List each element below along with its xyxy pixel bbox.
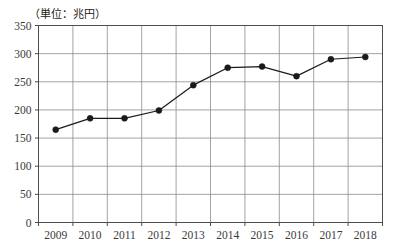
y-axis-labels: 050100150200250300350 [14,20,32,229]
data-point [156,107,162,113]
data-point [328,56,334,62]
x-gridlines [73,26,348,223]
x-axis-ticks [39,223,383,227]
y-tick-label: 100 [14,160,32,172]
data-point [87,115,93,121]
data-point [362,54,368,60]
x-tick-label: 2016 [285,229,308,241]
x-tick-label: 2015 [251,229,274,241]
line-chart: （単位：兆円） 050100150200250300350 2009201020… [0,0,393,248]
y-tick-label: 350 [14,20,32,32]
y-tick-label: 250 [14,76,32,88]
x-tick-label: 2013 [182,229,205,241]
data-point [190,82,196,88]
x-tick-label: 2012 [147,229,170,241]
data-point [259,64,265,70]
y-tick-label: 50 [20,188,32,200]
x-tick-label: 2014 [216,229,239,241]
data-point [225,65,231,71]
data-point [53,127,59,133]
x-tick-label: 2009 [44,229,67,241]
y-tick-label: 0 [26,217,32,229]
y-tick-label: 200 [14,104,32,116]
x-tick-label: 2010 [79,229,102,241]
data-point [294,73,300,79]
chart-unit-label: （単位：兆円） [29,5,106,21]
x-tick-label: 2017 [319,229,342,241]
y-axis-ticks [35,26,39,223]
data-point [122,115,128,121]
y-tick-label: 300 [14,48,32,60]
x-axis-labels: 2009201020112012201320142015201620172018 [44,229,377,241]
x-tick-label: 2011 [113,229,136,241]
y-tick-label: 150 [14,132,32,144]
chart-plot-area: 050100150200250300350 200920102011201220… [0,0,393,248]
x-tick-label: 2018 [354,229,377,241]
